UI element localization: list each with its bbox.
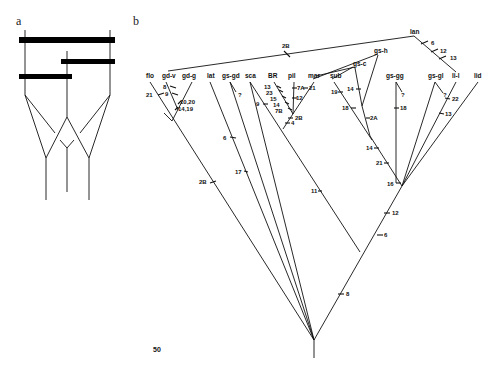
char-label: 2B bbox=[282, 43, 290, 49]
taxon-gs-h: gs-h bbox=[374, 47, 388, 55]
taxon-gs-gd: gs-gd bbox=[222, 72, 240, 80]
character-tick bbox=[172, 93, 178, 95]
taxon-li-l: li-l bbox=[452, 72, 460, 79]
char-label: 12 bbox=[296, 95, 303, 101]
char-label: 6 bbox=[384, 232, 388, 238]
char-label: 10,20 bbox=[180, 99, 196, 105]
branch-lid bbox=[402, 82, 478, 186]
char-label: 21 bbox=[376, 160, 383, 166]
panel-b-label: b bbox=[133, 14, 139, 28]
char-label: 18 bbox=[400, 105, 407, 111]
panel-b: b flo gd-v gd-g lat gs-gd sca BR pil mar… bbox=[133, 14, 482, 358]
char-label: 9 bbox=[165, 91, 169, 97]
branch bbox=[25, 95, 55, 133]
branch bbox=[25, 95, 46, 158]
char-label: 19 bbox=[331, 89, 338, 95]
character-tick bbox=[431, 49, 438, 52]
char-label: 8 bbox=[163, 84, 167, 90]
char-label: 17 bbox=[235, 169, 242, 175]
taxon-lan: lan bbox=[410, 28, 419, 35]
character-tick bbox=[439, 56, 446, 59]
char-label: 2A bbox=[370, 115, 378, 121]
panel-a: a bbox=[16, 14, 115, 200]
taxon-BR: BR bbox=[268, 72, 278, 79]
branch bbox=[46, 117, 67, 158]
char-label: 21 bbox=[146, 92, 153, 98]
branch bbox=[67, 117, 89, 158]
taxon-gs-gg: gs-gg bbox=[386, 72, 404, 80]
char-label: ? bbox=[401, 92, 405, 98]
taxon-pil: pil bbox=[288, 72, 296, 80]
hybrid-bar-middle bbox=[61, 59, 115, 64]
branch-gs-gl-q bbox=[435, 82, 443, 93]
taxon-gd-v: gd-v bbox=[162, 72, 176, 80]
char-label: 12 bbox=[440, 48, 447, 54]
branch-lan bbox=[414, 36, 456, 72]
char-label: 14 bbox=[347, 86, 354, 92]
character-tick bbox=[445, 98, 450, 99]
char-label: 7B bbox=[275, 108, 283, 114]
character-tick bbox=[244, 171, 248, 172]
char-label: 6 bbox=[431, 40, 435, 46]
char-label: 18 bbox=[342, 105, 349, 111]
taxon-lid: lid bbox=[474, 72, 482, 79]
branch-li-l bbox=[402, 82, 456, 186]
char-label: 13 bbox=[445, 111, 452, 117]
char-label: 6 bbox=[223, 135, 227, 141]
char-label: 16 bbox=[387, 181, 394, 187]
char-label: 9 bbox=[256, 101, 260, 107]
branch bbox=[60, 140, 67, 148]
character-tick bbox=[170, 86, 176, 88]
taxon-lat: lat bbox=[207, 72, 215, 79]
char-label: 22 bbox=[452, 96, 459, 102]
branch-main-stem bbox=[314, 186, 402, 340]
taxon-sub: sub bbox=[330, 72, 342, 79]
branch bbox=[89, 95, 110, 158]
character-tick bbox=[158, 93, 164, 95]
hybrid-bar-bottom bbox=[19, 74, 72, 79]
figure: a b flo gd-v gd-g lat gs-gd sca BR pil bbox=[0, 0, 500, 376]
taxon-gd-g: gd-g bbox=[182, 72, 196, 80]
char-label: 8 bbox=[346, 291, 350, 297]
char-label: 14 bbox=[366, 145, 373, 151]
branch-flo bbox=[150, 82, 314, 340]
branch-gs-c bbox=[355, 68, 362, 106]
branch-gs-gl bbox=[402, 82, 435, 186]
char-label: 2B bbox=[295, 115, 303, 121]
char-label: 11 bbox=[311, 188, 318, 194]
char-label: 12 bbox=[392, 210, 399, 216]
branch-upper-stem bbox=[370, 136, 402, 186]
hybrid-bar-top bbox=[19, 37, 115, 43]
reticulation-line-gs-h bbox=[313, 54, 378, 79]
character-tick bbox=[230, 137, 236, 138]
branch bbox=[80, 95, 110, 133]
branch-sca-outer bbox=[250, 82, 314, 340]
char-label: ? bbox=[238, 92, 242, 98]
branch bbox=[67, 140, 74, 148]
char-label: 14,19 bbox=[178, 106, 194, 112]
taxon-gs-gl: gs-gl bbox=[428, 72, 444, 80]
char-label: 13 bbox=[450, 55, 457, 61]
branch-gs-gg-q bbox=[396, 82, 402, 92]
char-label: ? bbox=[443, 92, 447, 98]
panel-a-label: a bbox=[16, 14, 22, 28]
scale-label: 50 bbox=[153, 346, 161, 353]
char-label: 2B bbox=[199, 179, 207, 185]
char-label: 21 bbox=[309, 85, 316, 91]
taxon-sca: sca bbox=[245, 72, 256, 79]
taxon-flo: flo bbox=[146, 72, 154, 79]
